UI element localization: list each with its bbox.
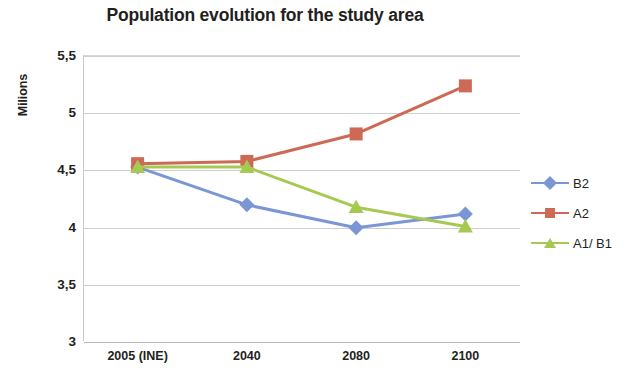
gridline bbox=[84, 342, 520, 343]
gridline bbox=[84, 285, 520, 286]
legend-swatch bbox=[531, 176, 569, 190]
y-axis-tick-label: 3 bbox=[0, 334, 76, 349]
legend-diamond-icon bbox=[543, 176, 557, 190]
x-axis-tick-label: 2080 bbox=[342, 349, 370, 363]
y-axis-tick-label: 3,5 bbox=[0, 276, 76, 291]
y-axis-tick-label: 4 bbox=[0, 219, 76, 234]
plot-area bbox=[83, 55, 520, 341]
gridline bbox=[84, 56, 520, 57]
legend-label: B2 bbox=[569, 176, 589, 191]
y-axis-tick-label: 4,5 bbox=[0, 162, 76, 177]
x-axis-tick-label: 2100 bbox=[451, 349, 479, 363]
gridline bbox=[84, 228, 520, 229]
legend-swatch bbox=[531, 206, 569, 220]
chart-legend: B2A2A1/ B1 bbox=[531, 168, 627, 258]
gridline bbox=[84, 113, 520, 114]
legend-item-a2[interactable]: A2 bbox=[531, 198, 627, 228]
legend-label: A1/ B1 bbox=[569, 236, 612, 251]
legend-label: A2 bbox=[569, 206, 589, 221]
x-axis-tick-label: 2040 bbox=[233, 349, 261, 363]
line-chart: Population evolution for the study area … bbox=[0, 0, 627, 378]
chart-title: Population evolution for the study area bbox=[0, 5, 530, 26]
y-axis-tick-label: 5 bbox=[0, 105, 76, 120]
y-axis-tick-label: 5,5 bbox=[0, 48, 76, 63]
legend-swatch bbox=[531, 236, 569, 250]
legend-square-icon bbox=[545, 208, 555, 218]
x-axis-tick-label: 2005 (INE) bbox=[107, 349, 167, 363]
legend-triangle-icon bbox=[544, 238, 556, 248]
legend-item-b2[interactable]: B2 bbox=[531, 168, 627, 198]
gridline bbox=[84, 170, 520, 171]
legend-item-a1-b1[interactable]: A1/ B1 bbox=[531, 228, 627, 258]
